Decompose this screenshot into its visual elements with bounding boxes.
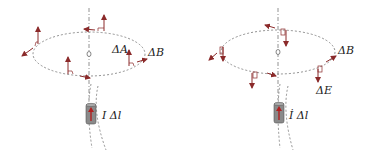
efield-vector — [252, 72, 257, 88]
label-current-right: İ Δl — [289, 109, 308, 122]
tangent-arrow — [326, 56, 336, 62]
area-vector — [35, 27, 38, 46]
left-diagram — [22, 8, 147, 150]
tangent-arrow — [22, 48, 33, 56]
area-vector — [98, 15, 104, 31]
center-point — [87, 52, 91, 57]
current-element — [274, 102, 284, 123]
label-delta-b-right: ΔB — [338, 44, 354, 57]
right-diagram — [209, 8, 336, 150]
tangent-arrow — [84, 29, 95, 30]
tangent-arrow — [209, 53, 217, 60]
area-vector — [68, 57, 73, 74]
label-current-left: I Δl — [102, 109, 121, 122]
efield-vector — [318, 66, 322, 82]
tangent-arrow — [265, 25, 275, 28]
center-point — [276, 50, 280, 55]
tangent-arrow — [267, 73, 276, 76]
efield-vector — [281, 29, 286, 46]
label-delta-a: ΔA — [112, 43, 128, 56]
area-vector — [129, 50, 134, 66]
current-element — [86, 103, 96, 124]
diagram-canvas — [0, 0, 366, 160]
label-delta-e: ΔE — [316, 84, 332, 97]
label-delta-b-left: ΔB — [148, 46, 164, 59]
